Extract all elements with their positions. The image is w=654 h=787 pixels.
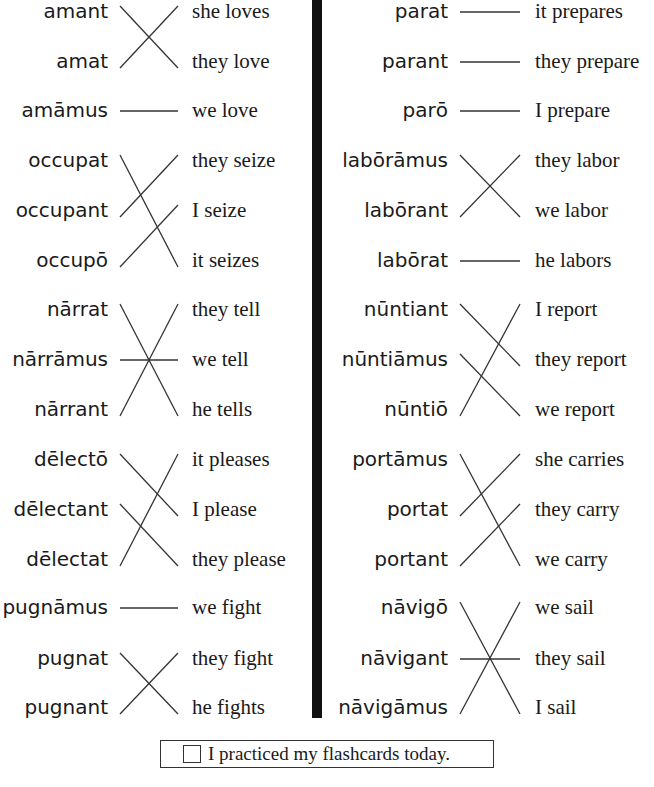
match-line bbox=[120, 454, 178, 566]
practice-label: I practiced my flashcards today. bbox=[208, 743, 450, 765]
practice-checkbox[interactable] bbox=[183, 745, 201, 763]
match-line bbox=[120, 205, 178, 267]
match-line bbox=[460, 454, 520, 566]
match-line bbox=[460, 304, 520, 366]
match-line bbox=[460, 504, 520, 566]
match-line bbox=[120, 454, 178, 516]
match-line bbox=[120, 155, 178, 217]
matching-lines bbox=[0, 0, 654, 787]
match-line bbox=[460, 454, 520, 516]
flashcard-practice-box: I practiced my flashcards today. bbox=[160, 740, 494, 768]
match-line bbox=[120, 155, 178, 267]
match-line bbox=[120, 504, 178, 566]
match-line bbox=[460, 304, 520, 416]
match-line bbox=[460, 354, 520, 416]
